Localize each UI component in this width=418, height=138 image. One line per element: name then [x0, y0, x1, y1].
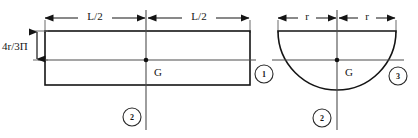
semi-centroid-point: [335, 58, 340, 63]
semi-axis-marker-3-label: 3: [396, 72, 400, 81]
rect-axis-marker-2-label: 2: [130, 113, 134, 122]
rect-axis-marker-1-label: 1: [262, 70, 266, 79]
semi-dimension-label-left: r: [305, 10, 309, 22]
figure-canvas: L/2 L/2 G 4r/3Π 1 2 r r: [0, 0, 418, 138]
rect-centroid-label: G: [154, 66, 162, 78]
rect-offset-label: 4r/3Π: [2, 40, 28, 52]
semi-centroid-label: G: [345, 66, 353, 78]
rectangle-shape: [45, 31, 250, 85]
semi-axis-marker-2-label: 2: [320, 114, 324, 123]
semi-dimension-label-right: r: [365, 10, 369, 22]
rect-dimension-label-right: L/2: [191, 10, 206, 22]
centroid-figure: L/2 L/2 G 4r/3Π 1 2 r r: [0, 0, 418, 138]
rect-centroid-point: [144, 58, 149, 63]
rect-dimension-label-left: L/2: [87, 10, 102, 22]
